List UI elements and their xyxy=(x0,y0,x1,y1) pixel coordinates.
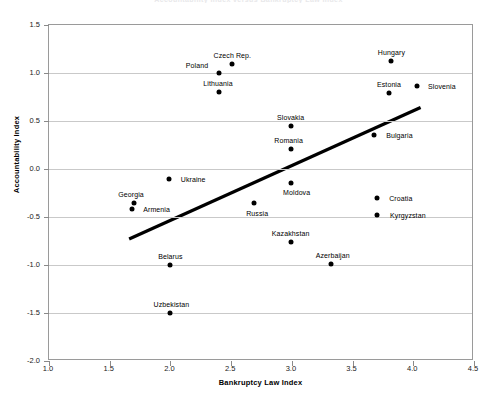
gridline-horizontal xyxy=(49,121,472,122)
y-tick-label: 1.0 xyxy=(30,68,40,77)
y-tick-mark xyxy=(44,169,49,170)
y-tick-mark xyxy=(44,313,49,314)
data-point[interactable] xyxy=(129,207,134,212)
data-point[interactable] xyxy=(168,263,173,268)
data-point[interactable] xyxy=(167,176,172,181)
data-point-label: Azerbaijan xyxy=(316,252,350,259)
x-tick-label: 4.0 xyxy=(407,364,417,373)
data-point-label: Kazakhstan xyxy=(272,229,310,236)
y-tick-label: -0.5 xyxy=(27,212,40,221)
data-point[interactable] xyxy=(387,91,392,96)
data-point-label: Moldova xyxy=(283,189,310,196)
x-tick-label: 2.0 xyxy=(164,364,174,373)
data-point-label: Armenia xyxy=(143,206,170,213)
plot-area: Czech Rep.HungaryPolandLithuaniaEstoniaS… xyxy=(48,24,473,360)
x-axis-title: Bankruptcy Law Index xyxy=(48,378,473,387)
y-tick-label: 1.5 xyxy=(30,20,40,29)
y-tick-mark xyxy=(44,25,49,26)
trend-line xyxy=(49,25,474,361)
gridline-horizontal xyxy=(49,313,472,314)
data-point[interactable] xyxy=(217,90,222,95)
data-point[interactable] xyxy=(217,71,222,76)
data-point-label: Bulgaria xyxy=(386,132,412,139)
data-point[interactable] xyxy=(230,62,235,67)
data-point-label: Romania xyxy=(274,136,303,143)
y-tick-label: -1.5 xyxy=(27,308,40,317)
data-point[interactable] xyxy=(288,181,293,186)
data-point[interactable] xyxy=(132,200,137,205)
data-point-label: Slovenia xyxy=(428,83,456,90)
y-tick-mark xyxy=(44,217,49,218)
data-point-label: Hungary xyxy=(378,49,405,56)
x-axis-tick-labels: 1.01.52.02.53.03.54.04.5 xyxy=(48,364,473,376)
gridline-horizontal xyxy=(49,265,472,266)
x-tick-label: 2.5 xyxy=(225,364,235,373)
data-point[interactable] xyxy=(328,262,333,267)
data-point[interactable] xyxy=(414,84,419,89)
data-point[interactable] xyxy=(288,146,293,151)
x-tick-label: 1.0 xyxy=(43,364,53,373)
gridline-horizontal xyxy=(49,73,472,74)
data-point-label: Poland xyxy=(186,62,208,69)
data-point-label: Georgia xyxy=(118,190,144,197)
x-tick-label: 1.5 xyxy=(103,364,113,373)
y-tick-mark xyxy=(44,121,49,122)
data-point-label: Belarus xyxy=(158,253,182,260)
data-point[interactable] xyxy=(374,195,379,200)
data-point[interactable] xyxy=(168,311,173,316)
data-point[interactable] xyxy=(288,239,293,244)
data-point-label: Lithuania xyxy=(203,80,232,87)
data-point-label: Slovakia xyxy=(277,113,304,120)
data-point-label: Russia xyxy=(246,209,268,216)
data-point-label: Estonia xyxy=(377,81,401,88)
x-tick-label: 3.0 xyxy=(286,364,296,373)
y-tick-label: 0.0 xyxy=(30,164,40,173)
data-point[interactable] xyxy=(372,133,377,138)
x-tick-label: 4.5 xyxy=(468,364,478,373)
data-point[interactable] xyxy=(288,123,293,128)
y-tick-label: 0.5 xyxy=(30,116,40,125)
data-point-label: Ukraine xyxy=(181,175,206,182)
y-tick-mark xyxy=(44,73,49,74)
y-tick-mark xyxy=(44,265,49,266)
data-point[interactable] xyxy=(374,213,379,218)
y-tick-label: -1.0 xyxy=(27,260,40,269)
data-point-label: Croatia xyxy=(389,194,412,201)
data-point-label: Czech Rep. xyxy=(214,52,252,59)
x-tick-label: 3.5 xyxy=(346,364,356,373)
y-axis-tick-labels: 1.51.00.50.0-0.5-1.0-1.5-2.0 xyxy=(0,24,44,360)
data-point[interactable] xyxy=(252,200,257,205)
scatter-chart: Accountability Index versus Bankruptcy L… xyxy=(0,0,497,395)
data-point[interactable] xyxy=(389,59,394,64)
gridline-horizontal xyxy=(49,169,472,170)
y-axis-title: Accountability Index xyxy=(12,75,21,235)
y-tick-label: -2.0 xyxy=(27,356,40,365)
data-point-label: Uzbekistan xyxy=(154,301,190,308)
chart-title: Accountability Index versus Bankruptcy L… xyxy=(0,0,497,3)
data-point-label: Kyrgyzstan xyxy=(390,212,426,219)
